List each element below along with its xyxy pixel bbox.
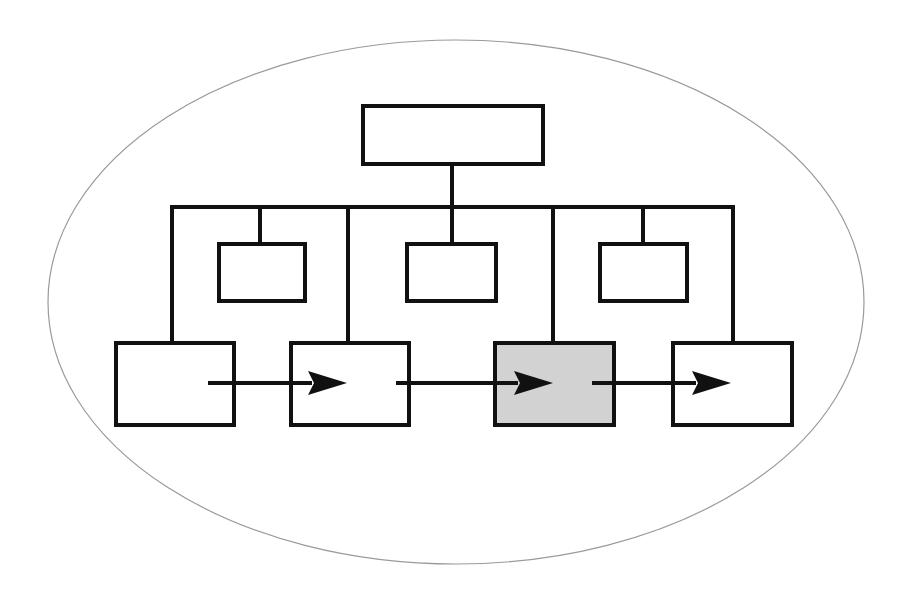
mid-node-3 xyxy=(600,244,687,301)
mid-node-1 xyxy=(219,244,305,301)
hierarchy-diagram xyxy=(0,0,912,596)
mid-node-2 xyxy=(407,244,496,301)
root-node xyxy=(363,106,543,164)
